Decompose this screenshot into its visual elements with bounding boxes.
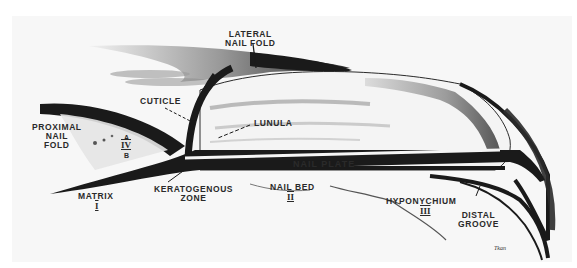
label-proximal-nail-fold: PROXIMAL NAIL FOLD <box>32 123 82 150</box>
label-nail-plate: NAIL PLATE <box>293 160 355 169</box>
label-lunula: LUNULA <box>254 119 293 128</box>
label-lateral-nail-fold-line2: NAIL FOLD <box>225 39 276 48</box>
label-hyponychium: HYPONYCHIUM <box>386 197 456 206</box>
label-hyponychium-numeral: III <box>420 207 431 216</box>
label-distal-line2: GROOVE <box>458 220 499 229</box>
label-zone-iv: IV <box>121 141 131 150</box>
label-nail-bed-numeral: II <box>287 193 294 202</box>
label-matrix: MATRIX <box>78 192 114 201</box>
label-cuticle: CUTICLE <box>140 97 181 106</box>
label-zone-b: B <box>124 151 130 160</box>
label-keratogenous-zone: KERATOGENOUS ZONE <box>154 185 233 203</box>
label-distal-groove: DISTAL GROOVE <box>458 211 499 229</box>
figure-canvas: LATERAL NAIL FOLD CUTICLE LUNULA PROXIMA… <box>0 0 577 268</box>
artist-signature: Tkan <box>494 245 506 251</box>
label-matrix-numeral: I <box>95 202 99 211</box>
label-lateral-nail-fold: LATERAL NAIL FOLD <box>225 30 276 48</box>
label-nail-bed: NAIL BED <box>270 183 315 192</box>
label-proximal-line3: FOLD <box>32 141 82 150</box>
label-keratogenous-line2: ZONE <box>154 194 233 203</box>
